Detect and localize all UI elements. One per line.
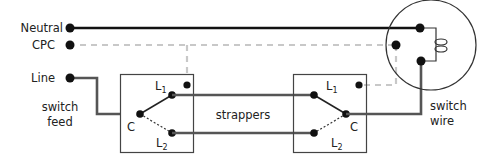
switch-feed-label-line1: switch: [42, 100, 79, 114]
lamp-filament-icon: [435, 39, 447, 52]
wiring-diagram: Neutral CPC Line switch feed: [0, 0, 484, 162]
switch-wire-label-line2: wire: [430, 114, 454, 128]
rose-earth-terminal: [392, 41, 401, 50]
cpc-terminal-dot: [66, 41, 75, 50]
neutral-label: Neutral: [21, 21, 63, 35]
neutral-terminal-dot: [66, 24, 75, 33]
switch-2-contact-closed: [314, 95, 346, 114]
switch-2-l2-label: L2: [331, 136, 343, 152]
ceiling-rose: [386, 0, 476, 90]
switch-2-l1-terminal: [310, 91, 318, 99]
line-terminal-dot: [66, 74, 75, 83]
switch-1-common-label: C: [127, 120, 135, 134]
switch-2-common-label: C: [350, 120, 358, 134]
rose-neutral-terminal: [416, 24, 425, 33]
switch-1[interactable]: L1 C L2: [121, 75, 194, 153]
neutral-wire: [66, 24, 421, 33]
switch-2-l2-terminal: [310, 129, 318, 137]
wiring-diagram-svg: Neutral CPC Line switch feed: [0, 0, 484, 162]
rose-switch-wire-terminal: [417, 57, 426, 66]
cpc-label: CPC: [32, 38, 55, 52]
switch-feed-label-line2: feed: [47, 115, 73, 129]
line-label: Line: [31, 71, 55, 85]
switch-2-earth-terminal: [355, 81, 362, 88]
switch-1-common-terminal: [136, 110, 144, 118]
strappers-label: strappers: [216, 108, 271, 122]
switch-2-l1-label: L1: [326, 79, 338, 95]
switch-wire-label-line1: switch: [430, 99, 467, 113]
switch-1-earth-terminal: [183, 81, 190, 88]
switch-2-contact-open: [314, 114, 346, 133]
